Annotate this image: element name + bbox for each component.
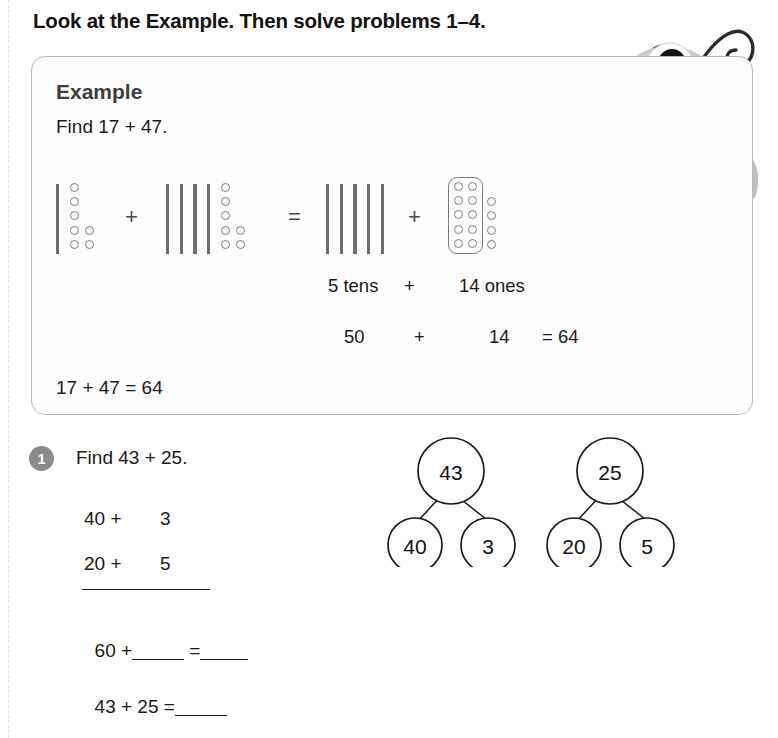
one-dot	[454, 196, 463, 205]
one-dot	[236, 226, 245, 235]
ten-stick	[180, 184, 183, 254]
one-dot	[236, 240, 245, 249]
example-title: Example	[56, 80, 142, 104]
one-dot	[487, 197, 496, 206]
one-dot	[85, 226, 94, 235]
ten-stick	[207, 184, 210, 254]
loose-ones-dots	[487, 178, 502, 254]
addition-rule-line	[82, 589, 210, 590]
tens-value: 50	[344, 326, 365, 348]
bond-part2-value: 5	[641, 535, 653, 558]
ten-stick	[166, 184, 169, 254]
ten-stick	[56, 184, 59, 254]
block-group-5-tens	[326, 178, 394, 254]
answer-line-prefix: 43 + 25 =	[95, 696, 175, 717]
block-group-14-ones	[448, 178, 502, 254]
bond-part2-value: 3	[482, 535, 494, 558]
label-plus-1: +	[404, 275, 415, 297]
one-dot	[70, 226, 79, 235]
ten-stick	[193, 184, 196, 254]
ten-stick	[340, 184, 343, 254]
addend1-tens: 40 +	[84, 508, 122, 530]
one-dot	[454, 239, 463, 248]
tens-sticks-group3	[326, 178, 394, 254]
problem-prompt: Find 43 + 25.	[76, 447, 187, 469]
ones-label: 14 ones	[459, 275, 525, 297]
ten-frame-box	[448, 177, 483, 254]
bond-part1-value: 20	[562, 535, 585, 558]
bond-whole-value: 25	[598, 461, 621, 484]
page-margin-guide	[8, 0, 9, 738]
one-dot	[454, 225, 463, 234]
one-dot	[487, 211, 496, 220]
one-dot	[468, 210, 477, 219]
ones-column	[70, 183, 79, 254]
ten-stick	[381, 184, 384, 254]
number-bond-right: 25 20 5	[547, 438, 674, 567]
tens-label: 5 tens	[328, 275, 378, 297]
ones-column	[454, 182, 463, 253]
one-dot	[85, 240, 94, 249]
ones-dots-group1	[70, 178, 100, 254]
addend1-ones: 3	[160, 508, 171, 530]
one-dot	[468, 182, 477, 191]
one-dot	[221, 183, 230, 192]
one-dot	[468, 239, 477, 248]
ones-column	[85, 226, 94, 254]
one-dot	[454, 210, 463, 219]
answer-line: 43 + 25 =	[84, 674, 227, 718]
one-dot	[487, 226, 496, 235]
one-dot	[454, 182, 463, 191]
one-dot	[468, 196, 477, 205]
label-plus-2: +	[414, 326, 425, 348]
addend2-tens: 20 +	[84, 553, 122, 575]
ten-stick	[326, 184, 329, 254]
plus-operator-2: +	[408, 204, 421, 230]
ones-column	[468, 182, 477, 253]
number-bond-diagrams: 43 40 3 25 20 5	[378, 437, 678, 567]
one-dot	[487, 240, 496, 249]
addend2-ones: 5	[160, 553, 171, 575]
block-group-17	[56, 178, 100, 254]
one-dot	[468, 225, 477, 234]
one-dot	[221, 240, 230, 249]
answer-blank-total[interactable]	[200, 659, 248, 660]
one-dot	[70, 211, 79, 220]
one-dot	[70, 197, 79, 206]
bond-part1-value: 40	[403, 535, 426, 558]
answer-blank-final[interactable]	[175, 715, 227, 716]
ten-stick	[353, 184, 356, 254]
tens-sticks-group1	[56, 178, 70, 254]
ones-value: 14	[489, 326, 510, 348]
one-dot	[70, 240, 79, 249]
block-group-47	[166, 178, 251, 254]
number-bond-left: 43 40 3	[388, 438, 515, 567]
example-final-equation: 17 + 47 = 64	[56, 377, 163, 399]
one-dot	[221, 226, 230, 235]
equals-operator: =	[288, 204, 301, 230]
one-dot	[221, 197, 230, 206]
equals-result: = 64	[542, 326, 579, 348]
answer-blank-partial[interactable]	[132, 659, 184, 660]
sum-line-equals: =	[189, 640, 200, 661]
ones-dots-group2	[221, 178, 251, 254]
plus-operator-1: +	[125, 204, 138, 230]
one-dot	[221, 211, 230, 220]
problem-number-badge: 1	[29, 446, 54, 471]
ones-column	[221, 183, 230, 254]
sum-line-prefix: 60 +	[95, 640, 133, 661]
ones-column	[487, 197, 496, 254]
sum-line: 60 + =	[84, 618, 248, 662]
one-dot	[70, 183, 79, 192]
bond-whole-value: 43	[439, 461, 462, 484]
example-find-text: Find 17 + 47.	[56, 116, 167, 138]
tens-sticks-group2	[166, 178, 221, 254]
ones-column	[236, 226, 245, 254]
ten-stick	[367, 184, 370, 254]
page-title: Look at the Example. Then solve problems…	[33, 9, 485, 33]
